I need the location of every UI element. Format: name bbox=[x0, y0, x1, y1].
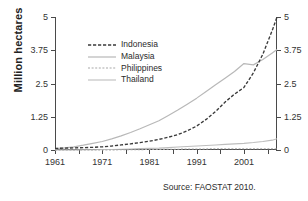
legend-line-swatch bbox=[88, 76, 116, 84]
y-tick-label-right: 1.25 bbox=[284, 112, 302, 122]
chart-figure: Million hectares 001.251.252.52.53.753.7… bbox=[0, 0, 308, 201]
y-axis-title: Million hectares bbox=[12, 0, 24, 110]
chart-legend: IndonesiaMalaysiaPhilippinesThailand bbox=[88, 39, 162, 86]
legend-item-label: Indonesia bbox=[121, 39, 158, 51]
y-tick-label: 2.5 bbox=[35, 79, 48, 89]
y-tick-label-right: 5 bbox=[284, 12, 289, 22]
y-tick-mark-right bbox=[276, 150, 281, 151]
legend-line-swatch bbox=[88, 41, 116, 49]
source-note: Source: FAOSTAT 2010. bbox=[163, 182, 256, 192]
legend-item-label: Malaysia bbox=[121, 51, 155, 63]
y-tick-label: 1.25 bbox=[30, 112, 48, 122]
x-tick-label: 1981 bbox=[139, 157, 159, 167]
y-tick-label-right: 2.5 bbox=[284, 79, 297, 89]
legend-item-thailand[interactable]: Thailand bbox=[88, 74, 162, 86]
legend-item-malaysia[interactable]: Malaysia bbox=[88, 51, 162, 63]
y-tick-label: 3.75 bbox=[30, 45, 48, 55]
legend-line-swatch bbox=[88, 64, 116, 72]
x-tick-label: 1961 bbox=[45, 157, 65, 167]
y-tick-label-right: 0 bbox=[284, 145, 289, 155]
legend-item-philippines[interactable]: Philippines bbox=[88, 63, 162, 75]
legend-item-label: Thailand bbox=[121, 74, 154, 86]
x-tick-label: 1991 bbox=[187, 157, 207, 167]
x-tick-label: 2001 bbox=[234, 157, 254, 167]
legend-item-indonesia[interactable]: Indonesia bbox=[88, 39, 162, 51]
y-tick-label: 0 bbox=[43, 145, 48, 155]
legend-item-label: Philippines bbox=[121, 63, 162, 75]
y-tick-label: 5 bbox=[43, 12, 48, 22]
x-tick-label: 1971 bbox=[92, 157, 112, 167]
legend-line-swatch bbox=[88, 53, 116, 61]
y-tick-label-right: 3.75 bbox=[284, 45, 302, 55]
